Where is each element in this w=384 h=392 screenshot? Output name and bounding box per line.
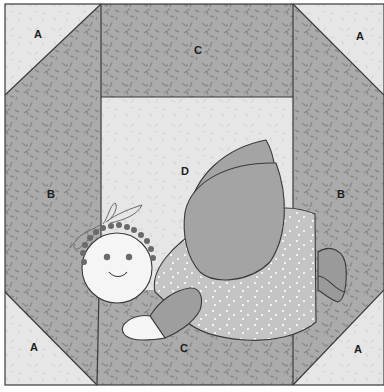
label-c-top: C	[194, 44, 202, 56]
label-c-bottom: C	[180, 342, 188, 354]
right-eye	[126, 254, 132, 260]
label-b-left: B	[47, 188, 55, 200]
label-a-bottom-right: A	[354, 343, 362, 355]
label-a-top-right: A	[356, 30, 364, 42]
head	[82, 233, 152, 303]
label-a-top-left: A	[34, 28, 42, 40]
label-d-center: D	[181, 165, 189, 177]
label-a-bottom-left: A	[30, 341, 38, 353]
quilt-block: A C A D B B A C A	[0, 0, 384, 392]
left-eye	[104, 254, 110, 260]
label-b-right: B	[337, 188, 345, 200]
